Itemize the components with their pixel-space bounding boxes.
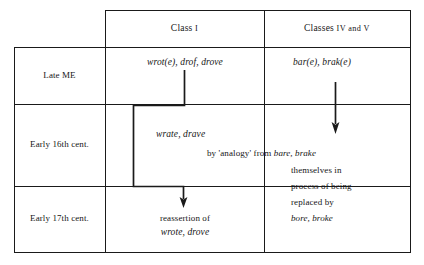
annotation-line-5-italic: bore, broke bbox=[291, 213, 333, 223]
row-rule-c16-top bbox=[14, 104, 411, 105]
class1-analogy-arrowhead bbox=[180, 197, 188, 208]
row-header-early-17th-text: Early 17th cent. bbox=[30, 213, 89, 223]
column-header-classes-4-5-numeral: IV and V bbox=[337, 24, 370, 33]
column-header-class-1-text: Class bbox=[171, 23, 193, 33]
annotation-line-1-italic: bare, brake bbox=[274, 148, 316, 158]
table-bottom-rule bbox=[14, 252, 411, 253]
col-rule-rowheader bbox=[105, 47, 106, 253]
cell-late-me-class-1-text: wrot(e), drof, drove bbox=[147, 57, 223, 67]
annotation-continuation-block: themselves in process of being replaced … bbox=[291, 165, 416, 225]
verb-class-development-diagram: Class I Classes IV and V Late ME Early 1… bbox=[0, 0, 424, 265]
cell-late-me-classes-4-5: bar(e), brak(e) bbox=[293, 56, 413, 69]
column-header-classes-4-5: Classes IV and V bbox=[264, 22, 410, 35]
cell-early-17th-line-2: wrote, drove bbox=[109, 226, 261, 239]
annotation-line-4: replaced by bbox=[291, 197, 416, 209]
annotation-line-3: process of being bbox=[291, 181, 416, 193]
row-header-early-16th: Early 16th cent. bbox=[14, 139, 105, 151]
annotation-line-1: by 'analogy' from bare, brake bbox=[207, 148, 412, 160]
cell-early-16th-class-1-text: wrate, drave bbox=[156, 129, 205, 139]
cell-early-17th-class-1: reassertion of wrote, drove bbox=[109, 213, 261, 238]
header-right-rule bbox=[410, 10, 411, 48]
cell-early-16th-class-1: wrate, drave bbox=[156, 128, 276, 141]
annotation-line-2: themselves in bbox=[291, 165, 416, 177]
annotation-line-5: bore, broke bbox=[291, 213, 416, 225]
cell-early-17th-line-1: reassertion of bbox=[109, 213, 261, 225]
class45-replacement-arrowhead bbox=[332, 122, 340, 134]
row-header-early-17th: Early 17th cent. bbox=[14, 213, 105, 225]
row-header-late-me-text: Late ME bbox=[43, 70, 75, 80]
header-top-rule bbox=[105, 10, 411, 11]
row-rule-late-me-top bbox=[14, 47, 411, 48]
annotation-line-1-plain: by 'analogy' from bbox=[207, 148, 274, 158]
cell-late-me-classes-4-5-text: bar(e), brak(e) bbox=[293, 57, 351, 67]
row-header-early-16th-text: Early 16th cent. bbox=[30, 139, 89, 149]
cell-late-me-class-1: wrot(e), drof, drove bbox=[109, 56, 261, 69]
column-header-class-1-numeral: I bbox=[195, 24, 198, 33]
row-header-late-me: Late ME bbox=[14, 70, 105, 82]
annotation-analogy-block: by 'analogy' from bare, brake bbox=[207, 148, 412, 160]
column-header-class-1: Class I bbox=[105, 22, 264, 35]
column-header-classes-4-5-text: Classes bbox=[304, 23, 334, 33]
